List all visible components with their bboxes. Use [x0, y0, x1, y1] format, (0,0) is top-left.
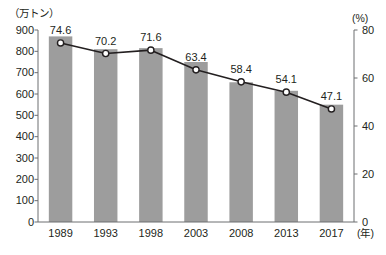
left-tick-400: 400 — [6, 131, 34, 142]
left-tick-500: 500 — [6, 110, 34, 121]
left-axis-tick-labels: 9008007006005004003002001000 — [6, 0, 34, 255]
right-tick-40: 40 — [362, 121, 386, 132]
value-label-2017: 47.1 — [319, 90, 344, 103]
value-label-1993: 70.2 — [93, 35, 118, 48]
x-axis-unit-label: (年) — [357, 228, 374, 239]
value-label-1998: 71.6 — [138, 31, 163, 44]
right-tick-60: 60 — [362, 73, 386, 84]
left-tick-700: 700 — [6, 67, 34, 78]
bar-1998 — [139, 48, 162, 222]
value-label-2013: 54.1 — [274, 73, 299, 86]
x-tick-1998: 1998 — [139, 228, 163, 239]
value-label-2008: 58.4 — [228, 63, 253, 76]
left-tick-200: 200 — [6, 174, 34, 185]
right-tick-0: 0 — [362, 217, 386, 228]
left-tick-300: 300 — [6, 153, 34, 164]
data-point-1989 — [57, 40, 63, 46]
right-tick-80: 80 — [362, 25, 386, 36]
right-axis-tick-labels: 806040200 — [362, 0, 386, 255]
bar-2013 — [275, 91, 298, 222]
x-tick-2008: 2008 — [229, 228, 253, 239]
data-point-2017 — [328, 106, 334, 112]
bar-1989 — [49, 36, 72, 222]
data-point-1998 — [148, 47, 154, 53]
x-tick-1993: 1993 — [93, 228, 117, 239]
left-tick-900: 900 — [6, 25, 34, 36]
value-label-2003: 63.4 — [183, 51, 208, 64]
data-point-2003 — [193, 67, 199, 73]
left-tick-600: 600 — [6, 89, 34, 100]
left-tick-100: 100 — [6, 195, 34, 206]
x-tick-2013: 2013 — [274, 228, 298, 239]
bar-2008 — [229, 82, 252, 222]
x-tick-1989: 1989 — [48, 228, 72, 239]
data-point-2008 — [238, 79, 244, 85]
x-tick-2017: 2017 — [319, 228, 343, 239]
data-point-1993 — [103, 50, 109, 56]
data-point-2013 — [283, 89, 289, 95]
right-tick-20: 20 — [362, 169, 386, 180]
chart-container: （万トン） (%) 9008007006005004003002001000 8… — [0, 0, 386, 255]
value-label-1989: 74.6 — [48, 24, 73, 37]
bar-2017 — [320, 105, 343, 222]
left-tick-0: 0 — [6, 217, 34, 228]
x-tick-2003: 2003 — [184, 228, 208, 239]
left-tick-800: 800 — [6, 46, 34, 57]
bar-2003 — [184, 62, 207, 222]
x-axis-tick-labels: 1989199319982003200820132017 — [38, 228, 354, 244]
bar-1993 — [94, 49, 117, 222]
